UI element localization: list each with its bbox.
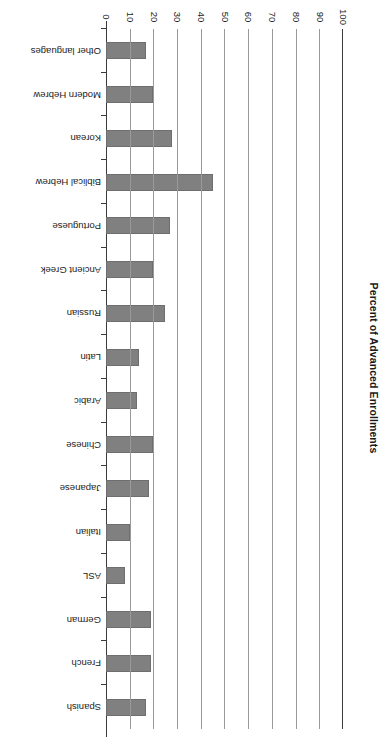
- value-tick-label: 100: [328, 11, 358, 23]
- category-tick: [101, 641, 106, 642]
- category-label: Biblical Hebrew: [36, 175, 101, 189]
- bar[interactable]: [106, 699, 146, 716]
- gridline: [130, 29, 131, 729]
- category-tick: [101, 509, 106, 510]
- category-tick: [101, 291, 106, 292]
- gridline: [272, 29, 273, 729]
- gridline: [296, 29, 297, 729]
- category-tick: [101, 116, 106, 117]
- bar[interactable]: [106, 174, 213, 191]
- category-label: Japanese: [60, 481, 101, 495]
- category-label: Ancient Greek: [41, 263, 101, 277]
- category-tick: [101, 684, 106, 685]
- value-axis-title-text: Percent of Advanced Enrollments: [368, 283, 380, 454]
- chart-figure-rotator: Percent of Advanced Enrollments 01020304…: [0, 0, 389, 737]
- bar[interactable]: [106, 392, 137, 409]
- category-tick: [101, 378, 106, 379]
- category-label: Portuguese: [52, 219, 101, 233]
- gridline: [201, 29, 202, 729]
- category-tick: [101, 334, 106, 335]
- category-label: Other languages: [31, 44, 101, 58]
- category-label: Arabic: [74, 394, 101, 408]
- category-tick: [101, 466, 106, 467]
- gridline: [319, 29, 320, 729]
- bar[interactable]: [106, 655, 151, 672]
- category-label: Latin: [80, 350, 101, 364]
- gridline: [177, 29, 178, 729]
- bar[interactable]: [106, 42, 146, 59]
- category-label: German: [67, 613, 101, 627]
- category-label: Russian: [67, 306, 101, 320]
- bar[interactable]: [106, 217, 170, 234]
- bar[interactable]: [106, 305, 165, 322]
- category-tick: [101, 28, 106, 29]
- category-tick: [101, 72, 106, 73]
- category-label: Italian: [76, 525, 101, 539]
- category-label: Spanish: [67, 700, 101, 714]
- gridline: [153, 29, 154, 729]
- gridline: [225, 29, 226, 729]
- plot-area: [106, 29, 343, 729]
- category-label: Chinese: [66, 438, 101, 452]
- bar[interactable]: [106, 611, 151, 628]
- category-tick: [101, 553, 106, 554]
- category-axis-labels: SpanishFrenchGermanASLItalianJapaneseChi…: [1, 29, 101, 729]
- category-tick: [101, 247, 106, 248]
- bar[interactable]: [106, 480, 149, 497]
- category-tick: [101, 597, 106, 598]
- category-label: Korean: [70, 131, 101, 145]
- category-tick: [101, 422, 106, 423]
- gridline: [248, 29, 249, 729]
- bar[interactable]: [106, 524, 130, 541]
- bar-chart-figure: Percent of Advanced Enrollments 01020304…: [0, 0, 389, 737]
- bar[interactable]: [106, 130, 172, 147]
- category-label: ASL: [83, 569, 101, 583]
- bar[interactable]: [106, 349, 139, 366]
- category-tick: [101, 203, 106, 204]
- bar[interactable]: [106, 567, 125, 584]
- category-tick: [101, 159, 106, 160]
- value-axis-tick-labels: 0102030405060708090100: [343, 0, 367, 737]
- category-label: French: [71, 656, 101, 670]
- category-label: Modern Hebrew: [33, 88, 101, 102]
- value-axis-title: Percent of Advanced Enrollments: [365, 0, 383, 737]
